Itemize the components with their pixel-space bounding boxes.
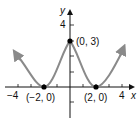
point-right [93, 84, 98, 89]
y-ticks [70, 25, 74, 102]
curve-arrow-right [120, 49, 123, 56]
point-top [67, 38, 72, 43]
x-tick-neg4: −4 [7, 90, 19, 101]
y-axis-label: y [59, 5, 66, 16]
point-left [41, 84, 46, 89]
graph: y x 4 −4 4 (0, 3) (−2, 0) (2, 0) [0, 0, 140, 122]
point-right-label: (2, 0) [84, 92, 107, 103]
point-left-label: (−2, 0) [26, 92, 55, 103]
x-tick-4: 4 [119, 90, 125, 101]
y-tick-4: 4 [60, 19, 66, 30]
point-top-label: (0, 3) [76, 36, 99, 47]
x-axis-label: x [130, 90, 137, 101]
